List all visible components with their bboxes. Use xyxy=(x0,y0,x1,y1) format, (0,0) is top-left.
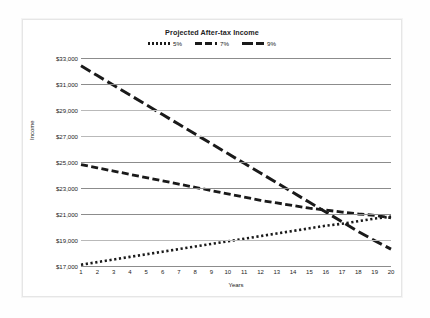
x-tick-label: 11 xyxy=(241,269,247,275)
gridline xyxy=(81,266,391,267)
y-tick-label: $27,000 xyxy=(26,133,78,140)
x-tick-label: 14 xyxy=(290,269,297,275)
chart-card: Projected After-tax Income 5% 7% 9% Inco… xyxy=(22,19,402,297)
y-tick-label: $17,000 xyxy=(26,263,78,270)
x-tick-label: 16 xyxy=(322,269,329,275)
x-tick-label: 20 xyxy=(388,269,395,275)
legend-item-5[interactable]: 5% xyxy=(148,40,182,47)
x-tick-label: 15 xyxy=(306,269,313,275)
y-tick-label: $33,000 xyxy=(26,55,78,62)
gridline xyxy=(81,110,391,111)
x-tick-label: 4 xyxy=(128,269,131,275)
legend-swatch-dotted-icon xyxy=(148,42,170,45)
x-tick-label: 12 xyxy=(257,269,264,275)
x-tick-label: 1 xyxy=(79,269,82,275)
x-tick-label: 2 xyxy=(96,269,99,275)
x-tick-label: 19 xyxy=(371,269,378,275)
gridline xyxy=(81,188,391,189)
y-tick-label: $31,000 xyxy=(26,81,78,88)
gridline xyxy=(81,58,391,59)
legend-item-7[interactable]: 7% xyxy=(195,40,229,47)
gridline xyxy=(81,136,391,137)
y-tick-label: $23,000 xyxy=(26,185,78,192)
gridline xyxy=(81,214,391,215)
x-tick-label: 6 xyxy=(161,269,164,275)
x-tick-label: 10 xyxy=(224,269,231,275)
plot-area xyxy=(81,58,391,266)
legend-swatch-longdash-icon xyxy=(242,42,264,45)
chart-page: Projected After-tax Income 5% 7% 9% Inco… xyxy=(0,0,430,318)
x-tick-label: 17 xyxy=(339,269,346,275)
gridline xyxy=(81,240,391,241)
gridline xyxy=(81,84,391,85)
x-tick-label: 5 xyxy=(145,269,148,275)
series-line-9pct xyxy=(81,66,391,249)
x-axis-ticks: 1234567891011121314151617181920 xyxy=(81,269,391,279)
y-axis-ticks: $33,000$31,000$29,000$27,000$25,000$23,0… xyxy=(23,58,78,266)
x-tick-label: 13 xyxy=(273,269,280,275)
legend-label-7: 7% xyxy=(220,40,229,47)
gridline xyxy=(81,162,391,163)
x-tick-label: 18 xyxy=(355,269,362,275)
legend-item-9[interactable]: 9% xyxy=(242,40,276,47)
legend-label-5: 5% xyxy=(173,40,182,47)
series-line-7pct xyxy=(81,165,391,218)
x-tick-label: 9 xyxy=(210,269,213,275)
x-axis-label: Years xyxy=(81,282,391,288)
y-tick-label: $19,000 xyxy=(26,237,78,244)
legend-label-9: 9% xyxy=(267,40,276,47)
x-tick-label: 7 xyxy=(177,269,180,275)
x-tick-label: 3 xyxy=(112,269,115,275)
chart-legend: 5% 7% 9% xyxy=(23,40,401,47)
y-tick-label: $25,000 xyxy=(26,159,78,166)
legend-swatch-dashed-icon xyxy=(195,42,217,45)
y-tick-label: $21,000 xyxy=(26,211,78,218)
x-tick-label: 8 xyxy=(194,269,197,275)
chart-title: Projected After-tax Income xyxy=(23,28,401,37)
y-tick-label: $29,000 xyxy=(26,107,78,114)
